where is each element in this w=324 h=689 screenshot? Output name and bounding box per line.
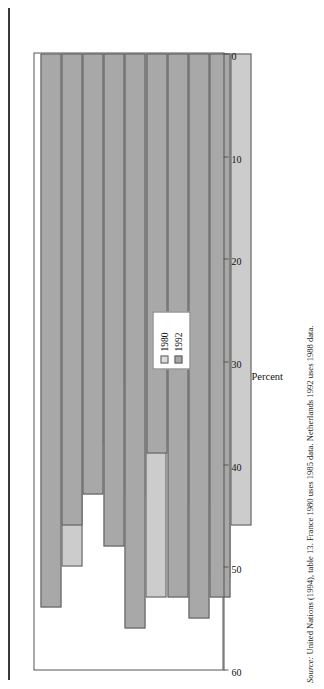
axis-tick [224, 670, 229, 671]
axis-tick [224, 362, 229, 363]
legend-swatch-1980 [161, 356, 169, 364]
axis-tick [224, 54, 229, 55]
axis-tick-label: 20 [232, 256, 242, 267]
legend-label-1980: 1980 [160, 333, 170, 352]
axis-tick-label: 60 [232, 667, 242, 678]
bar-group [56, 54, 77, 670]
axis-tick-label: 40 [232, 461, 242, 472]
axis-tick-label: 10 [232, 153, 242, 164]
legend-label-1992: 1992 [174, 333, 184, 352]
chart-plot-frame: 1980 1992 [34, 53, 224, 671]
bar-group [98, 54, 119, 670]
legend-item-1980: 1980 [158, 318, 172, 364]
chart-legend: 1980 1992 [153, 312, 191, 370]
legend-item-1992: 1992 [172, 318, 186, 364]
bar-plot-area [35, 54, 223, 670]
bar-group [77, 54, 98, 670]
bar-group [203, 54, 224, 670]
axis-tick-label: 0 [232, 51, 237, 62]
axis-tick-label: 30 [232, 359, 242, 370]
figure-rotated-container: 1980 1992 0102030405060 Percent United S… [34, 11, 247, 671]
bar-group [119, 54, 140, 670]
source-note-body: United Nations (1994), table 13. France … [305, 326, 315, 657]
source-note-text: Source: United Nations (1994), table 13.… [305, 213, 315, 683]
axis-tick-label: 50 [232, 564, 242, 575]
bar-group [35, 54, 56, 670]
axis-title: Percent [252, 371, 284, 382]
axis-tick [224, 567, 229, 568]
axis-tick [224, 259, 229, 260]
source-note-prefix: Source: [305, 657, 315, 683]
axis-tick [224, 464, 229, 465]
page-margin-rule [8, 8, 10, 680]
legend-swatch-1992 [175, 356, 183, 364]
axis-tick [224, 156, 229, 157]
source-note: Source: United Nations (1994), table 13.… [304, 0, 320, 689]
value-axis: 0102030405060 Percent [224, 53, 247, 671]
